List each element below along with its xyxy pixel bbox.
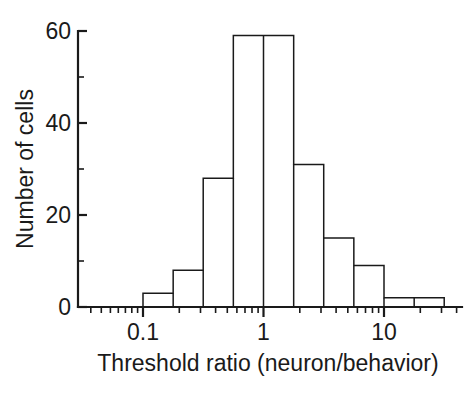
chart-canvas: 60 40 20 0 Number of cells [0,0,470,395]
y-tick-label-20: 20 [45,202,71,228]
x-tick-label-0.1: 0.1 [127,319,159,345]
y-tick-label-60: 60 [45,18,71,44]
histogram-figure: 60 40 20 0 Number of cells [0,0,470,395]
y-tick-label-0: 0 [58,294,71,320]
y-tick-label-40: 40 [45,110,71,136]
y-axis: 60 40 20 0 Number of cells [12,18,87,320]
x-tick-label-1: 1 [257,319,270,345]
x-axis-title: Threshold ratio (neuron/behavior) [97,350,438,376]
y-axis-title: Number of cells [12,89,38,249]
histogram-bars [143,36,444,307]
x-axis: 0.1 1 10 Threshold ratio (neuron/behavio… [78,307,462,376]
x-tick-label-10: 10 [371,319,397,345]
